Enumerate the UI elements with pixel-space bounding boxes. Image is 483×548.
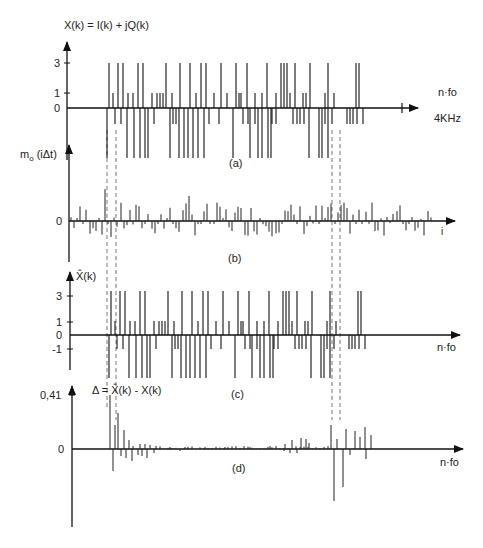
y-tick-c-3: 3 bbox=[56, 290, 62, 302]
y-tick-c-1: 1 bbox=[56, 316, 62, 328]
caption-a: (a) bbox=[229, 157, 242, 169]
y-tick-b-0: 0 bbox=[56, 215, 62, 227]
y-tick-a-3: 3 bbox=[54, 57, 60, 69]
y-label-a: X(k) = I(k) + jQ(k) bbox=[64, 19, 149, 31]
panel-a: 3 1 0 X(k) = I(k) + jQ(k) n·fo 4KHz (a) bbox=[54, 19, 461, 169]
y-label-d: Δ = X̂(k) - X(k) bbox=[92, 383, 161, 396]
x-label-c: n·fo bbox=[437, 341, 456, 353]
y-tick-d-041: 0,41 bbox=[40, 389, 61, 401]
caption-c: (c) bbox=[231, 388, 244, 400]
caption-d: (d) bbox=[232, 462, 245, 474]
y-tick-a-1: 1 bbox=[54, 87, 60, 99]
x-label-d: n·fo bbox=[440, 456, 459, 468]
stems-a bbox=[107, 63, 363, 158]
stems-b bbox=[71, 189, 431, 237]
panel-c: 3 1 0 -1 X̂(k) n·fo (c) bbox=[52, 269, 460, 400]
x-label-a: n·fo bbox=[438, 86, 457, 98]
x-end-label-a: 4KHz bbox=[434, 112, 461, 124]
y-tick-c-0: 0 bbox=[56, 329, 62, 341]
y-label-c: X̂(k) bbox=[76, 269, 96, 282]
y-label-b-sub: o bbox=[29, 154, 34, 163]
y-tick-c-neg1: -1 bbox=[52, 343, 62, 355]
y-label-b-main: m bbox=[20, 148, 29, 160]
y-tick-d-0: 0 bbox=[58, 443, 64, 455]
figure-canvas: 3 1 0 X(k) = I(k) + jQ(k) n·fo 4KHz (a) … bbox=[0, 0, 483, 548]
x-label-b: i bbox=[441, 226, 443, 237]
y-tick-a-0: 0 bbox=[54, 102, 60, 114]
y-label-b-arg: (iΔt) bbox=[37, 148, 57, 160]
caption-b: (b) bbox=[228, 252, 241, 264]
y-label-b: mo(iΔt) bbox=[20, 148, 57, 163]
panel-d: 0,41 0 Δ = X̂(k) - X(k) n·fo (d) bbox=[40, 383, 463, 527]
